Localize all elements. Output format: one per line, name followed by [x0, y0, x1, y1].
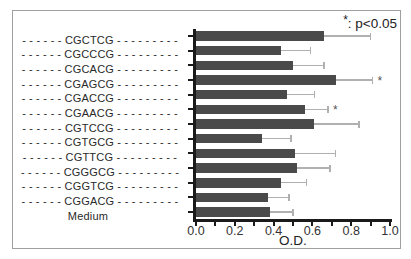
y-tick	[188, 79, 193, 81]
bar-medium	[196, 207, 270, 217]
x-tick-label-0.8: 0.8	[335, 224, 367, 238]
error-bar-cap	[358, 121, 360, 128]
category-label-cggtcg: - - - - - - CGGTCG - - - - - - - - -	[13, 180, 187, 192]
error-bar	[293, 65, 324, 66]
error-bar	[295, 153, 336, 154]
error-bar	[305, 109, 328, 110]
category-label-cgtccg: - - - - - - CGTCCG - - - - - - - - -	[13, 122, 187, 134]
y-tick	[188, 167, 193, 169]
error-bar-cap	[327, 106, 329, 113]
error-bar-cap	[329, 165, 331, 172]
y-tick	[188, 182, 193, 184]
category-label-cgggcg: - - - - - - CGGGCG - - - - - - - - -	[13, 166, 187, 178]
y-tick	[188, 196, 193, 198]
y-tick	[188, 64, 193, 66]
bar-cgcacg	[196, 61, 293, 71]
error-bar	[287, 94, 314, 95]
error-bar-cap	[323, 62, 325, 69]
error-bar-cap	[310, 47, 312, 54]
x-tick-label-0.0: 0.0	[180, 224, 212, 238]
category-label-cgaccg: - - - - - - CGACCG - - - - - - - - -	[13, 92, 187, 104]
error-bar-cap	[335, 150, 337, 157]
bar-cggtcg	[196, 178, 281, 188]
x-tick	[292, 222, 294, 226]
bar-cgagcg	[196, 75, 336, 85]
significance-asterisk-cgagcg: *	[378, 74, 383, 88]
category-label-cgcacg: - - - - - - CGCACG - - - - - - - - -	[13, 63, 187, 75]
category-label-cgtgcg: - - - - - - CGTGCG - - - - - - - - -	[13, 136, 187, 148]
y-tick	[188, 152, 193, 154]
error-bar-cap	[292, 209, 294, 216]
error-bar-cap	[290, 135, 292, 142]
error-bar-cap	[306, 179, 308, 186]
x-tick	[370, 222, 372, 226]
bar-chart-figure: *: p<0.05 - - - - - - CGCTCG - - - - - -…	[0, 0, 411, 259]
category-label-cgcccg: - - - - - - CGCCCG - - - - - - - - -	[13, 48, 187, 60]
y-tick	[188, 94, 193, 96]
error-bar	[281, 50, 310, 51]
y-tick	[188, 123, 193, 125]
error-bar	[324, 35, 371, 36]
bar-cgaccg	[196, 90, 287, 100]
significance-legend: *: p<0.05	[343, 13, 397, 31]
y-tick	[188, 108, 193, 110]
y-tick	[188, 138, 193, 140]
bar-cgtgcg	[196, 134, 262, 144]
error-bar	[336, 79, 373, 80]
bar-cgaacg	[196, 105, 305, 115]
bar-cgggcg	[196, 163, 297, 173]
x-tick	[331, 222, 333, 226]
category-label-cgctcg: - - - - - - CGCTCG - - - - - - - - -	[13, 34, 187, 46]
bar-cgctcg	[196, 31, 324, 41]
error-bar	[297, 167, 330, 168]
x-tick-label-0.2: 0.2	[219, 224, 251, 238]
bar-cgttcg	[196, 149, 295, 159]
y-tick	[188, 35, 193, 37]
x-tick-label-1.0: 1.0	[374, 224, 406, 238]
x-tick	[214, 222, 216, 226]
category-label-cgttcg: - - - - - - CGTTCG - - - - - - - - -	[13, 151, 187, 163]
error-bar	[281, 182, 306, 183]
x-axis-label: O.D.	[263, 233, 323, 248]
bar-cgcccg	[196, 46, 281, 56]
significance-asterisk-cgaacg: *	[333, 103, 338, 117]
error-bar-cap	[314, 91, 316, 98]
bar-cggacg	[196, 193, 268, 203]
x-tick	[253, 222, 255, 226]
significance-legend-text: : p<0.05	[348, 16, 397, 31]
error-bar-cap	[372, 77, 374, 84]
error-bar	[314, 123, 359, 124]
y-tick	[188, 50, 193, 52]
error-bar	[268, 197, 289, 198]
y-tick	[188, 211, 193, 213]
error-bar-cap	[370, 33, 372, 40]
bar-cgtccg	[196, 119, 314, 129]
category-label-medium: Medium	[1, 210, 175, 222]
error-bar	[270, 211, 293, 212]
category-label-cgagcg: - - - - - - CGAGCG - - - - - - - - -	[13, 78, 187, 90]
category-label-cgaacg: - - - - - - CGAACG - - - - - - - - -	[13, 107, 187, 119]
error-bar-cap	[288, 194, 290, 201]
category-label-cggacg: - - - - - - CGGACG - - - - - - - - -	[13, 195, 187, 207]
error-bar	[262, 138, 291, 139]
